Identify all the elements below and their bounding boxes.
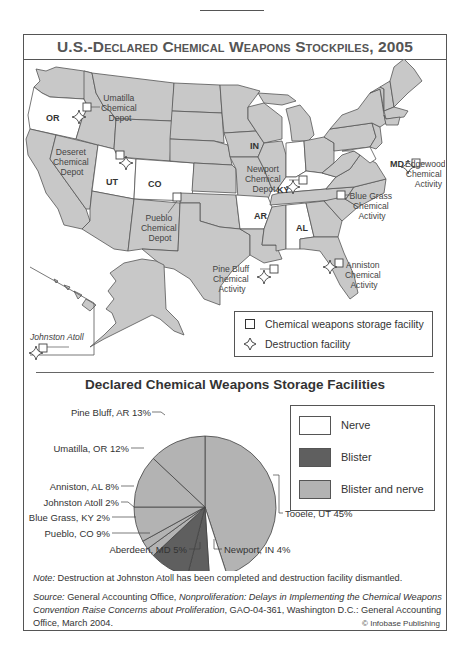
- pie-label-pueblo: Pueblo, CO 9%: [45, 528, 111, 539]
- destruction-icon-pinebluff: [257, 270, 271, 284]
- storage-icon-bluegrass: [337, 191, 345, 199]
- note-label: Note:: [33, 573, 55, 583]
- note-body: Destruction at Johnston Atoll has been c…: [55, 573, 402, 583]
- legend-blister-nerve: Blister and nerve: [299, 479, 424, 499]
- legend-blister-label: Blister: [341, 451, 372, 463]
- source-label: Source:: [33, 592, 65, 602]
- storage-icon-pueblo: [173, 193, 181, 201]
- note-text: Note: Destruction at Johnston Atoll has …: [33, 573, 402, 583]
- figure-title: U.S.-Declared Chemical Weapons Stockpile…: [24, 35, 446, 60]
- title-part: tockpiles: [306, 38, 370, 55]
- state-mi-upper: [258, 93, 296, 105]
- state-in: [286, 141, 306, 177]
- legend-nerve-label: Nerve: [341, 419, 370, 431]
- state-label-co: CO: [148, 179, 162, 189]
- pie-label-anniston: Anniston, AL 8%: [50, 481, 120, 492]
- state-nd: [172, 83, 222, 113]
- state-ks: [192, 163, 236, 193]
- pie-label-pinebluff: Pine Bluff, AR 13%: [71, 407, 152, 418]
- storage-icon-anniston: [335, 259, 343, 267]
- copyright-credit: © Infobase Publishing: [362, 619, 440, 628]
- title-part: , 2005: [369, 38, 413, 55]
- title-part: hemical: [174, 38, 225, 55]
- state-label-ut: UT: [106, 177, 118, 187]
- storage-icon-johnston: [39, 344, 47, 352]
- state-label-ar: AR: [254, 211, 267, 221]
- state-label-or: OR: [46, 113, 60, 123]
- pie-label-aberdeen: Aberdeen, MD 5%: [109, 544, 187, 555]
- state-mi: [286, 105, 314, 141]
- state-ak: [90, 259, 184, 347]
- site-label-pinebluff: Pine Bluff Chemical Activity: [212, 264, 251, 294]
- square-icon: [243, 319, 257, 329]
- pie-chart-title: Declared Chemical Weapons Storage Facili…: [24, 377, 446, 392]
- legend-destruction: Destruction facility: [243, 337, 350, 351]
- legend-blister: Blister: [299, 447, 372, 467]
- star-icon: [243, 337, 257, 351]
- map-legend: Chemical weapons storage facility Destru…: [234, 311, 433, 357]
- title-part: eapons: [244, 38, 291, 55]
- storage-icon-deseret: [116, 151, 124, 159]
- figure-frame: U.S.-Declared Chemical Weapons Stockpile…: [23, 34, 447, 631]
- title-part: C: [158, 38, 174, 55]
- legend-nerve: Nerve: [299, 415, 370, 435]
- pie-label-johnston: Johnston Atoll 2%: [43, 497, 119, 508]
- legend-storage: Chemical weapons storage facility: [243, 318, 424, 330]
- state-sd: [170, 111, 224, 143]
- state-label-al: AL: [296, 223, 308, 233]
- title-part: eclared: [104, 38, 158, 55]
- site-label-anniston: Anniston Chemical Activity: [345, 260, 383, 290]
- legend-storage-label: Chemical weapons storage facility: [265, 318, 424, 330]
- pie-legend: Nerve Blister Blister and nerve: [290, 405, 435, 511]
- pie-label-bluegrass: Blue Grass, KY 2%: [29, 512, 111, 523]
- storage-icon-newport: [299, 176, 307, 184]
- blister-swatch: [299, 448, 331, 467]
- title-part: S: [291, 38, 306, 55]
- pie-label-umatilla: Umatilla, OR 12%: [54, 443, 130, 454]
- pie-label-newport: Newport, IN 4%: [224, 544, 291, 555]
- blister-nerve-swatch: [299, 480, 331, 499]
- site-label-edgewood: Edgewood Chemical Activity: [405, 159, 445, 189]
- storage-icon-umatilla: [83, 103, 91, 111]
- section-divider: [36, 372, 434, 373]
- site-label-johnston: Johnston Atoll: [29, 332, 85, 342]
- site-label-bluegrass: Blue Grass Chemical Activity: [350, 191, 395, 221]
- legend-blister-nerve-label: Blister and nerve: [341, 483, 424, 495]
- title-part: W: [225, 38, 244, 55]
- storage-icon-pinebluff: [270, 265, 278, 273]
- state-ny: [330, 89, 386, 129]
- source-part: General Accounting Office,: [65, 592, 179, 602]
- state-me: [390, 59, 422, 107]
- top-rule: [200, 10, 264, 11]
- state-label-in: IN: [250, 141, 259, 151]
- legend-destruction-label: Destruction facility: [265, 338, 350, 350]
- nerve-swatch: [299, 416, 331, 435]
- title-part: U.S.-D: [57, 38, 104, 55]
